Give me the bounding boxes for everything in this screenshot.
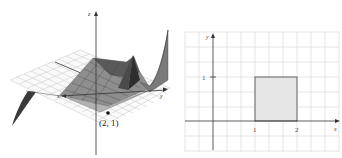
x-axis-label: x [333, 126, 337, 132]
surface-plot-3d: z y x (2, 1) [0, 0, 171, 158]
y-axis-label: y [205, 34, 209, 40]
y-axis-label: y [159, 93, 163, 99]
x-tick-label-1: 1 [253, 126, 257, 134]
point-marker [106, 111, 110, 115]
z-axis-arrow-icon [94, 11, 98, 16]
x-axis-label: x [56, 93, 60, 99]
y-axis-arrow-icon [211, 33, 215, 38]
z-axis-label: z [87, 11, 91, 17]
y-tick-label-1: 1 [202, 74, 206, 82]
shaded-region [255, 77, 297, 121]
point-label: (2, 1) [99, 118, 119, 128]
x-tick-label-2: 2 [295, 126, 299, 134]
region-grid-2d: x y 1 1 2 [171, 0, 342, 158]
surface-plot-svg: z y x (2, 1) [0, 0, 171, 158]
region-grid-svg: x y 1 1 2 [171, 0, 342, 158]
